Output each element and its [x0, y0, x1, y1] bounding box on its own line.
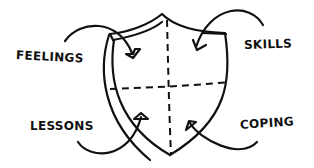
feelings-arrowhead [126, 49, 140, 58]
vertical-divider [167, 20, 171, 155]
shield-right-edge [170, 33, 228, 155]
shield-top-inner-edge [113, 22, 162, 40]
skills-arrowhead [193, 40, 206, 50]
label-lessons: LESSONS [30, 119, 94, 133]
feelings-arrow [65, 26, 132, 53]
shield-left-edge [112, 40, 170, 155]
label-skills: SKILLS [244, 36, 293, 52]
shield-diagram [0, 0, 314, 168]
